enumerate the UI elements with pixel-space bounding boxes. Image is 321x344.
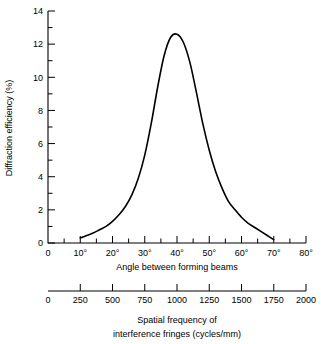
y-tick-label: 14 <box>33 6 43 16</box>
x-tick-label: 20° <box>106 248 120 258</box>
secondary-tick-label: 750 <box>137 295 152 305</box>
y-tick-label: 12 <box>33 39 43 49</box>
x-tick-label: 0 <box>45 248 50 258</box>
x-tick-label: 80° <box>299 248 313 258</box>
y-tick-label: 0 <box>38 238 43 248</box>
secondary-tick-label: 0 <box>45 295 50 305</box>
secondary-tick-label: 500 <box>105 295 120 305</box>
secondary-axis-caption-line2: interference fringes (cycles/mm) <box>113 329 241 339</box>
x-tick-label: 10° <box>73 248 87 258</box>
x-tick-label: 50° <box>202 248 216 258</box>
y-tick-label: 4 <box>38 172 43 182</box>
secondary-tick-label: 2000 <box>296 295 316 305</box>
y-tick-label: 6 <box>38 139 43 149</box>
y-tick-label: 8 <box>38 106 43 116</box>
secondary-tick-label: 1500 <box>231 295 251 305</box>
secondary-tick-label: 1750 <box>264 295 284 305</box>
y-tick-label: 2 <box>38 205 43 215</box>
x-tick-label: 30° <box>138 248 152 258</box>
y-axis-label: Diffraction efficiency (%) <box>4 80 14 177</box>
secondary-axis-caption-line1: Spatial frequency of <box>137 315 217 325</box>
y-tick-label: 10 <box>33 73 43 83</box>
x-tick-label: 60° <box>235 248 249 258</box>
secondary-tick-label: 250 <box>73 295 88 305</box>
x-tick-label: 70° <box>267 248 281 258</box>
secondary-tick-label: 1250 <box>199 295 219 305</box>
diffraction-efficiency-figure: Diffraction efficiency (%) 02468101214 0… <box>0 0 321 344</box>
secondary-axis-tick-labels: 025050075010001250150017502000 <box>45 295 316 305</box>
secondary-tick-label: 1000 <box>167 295 187 305</box>
x-axis-tick-labels: 010°20°30°40°50°60°70°80° <box>45 248 313 258</box>
chart-canvas: Diffraction efficiency (%) 02468101214 0… <box>0 0 321 344</box>
x-axis-caption: Angle between forming beams <box>116 262 238 272</box>
x-tick-label: 40° <box>170 248 184 258</box>
